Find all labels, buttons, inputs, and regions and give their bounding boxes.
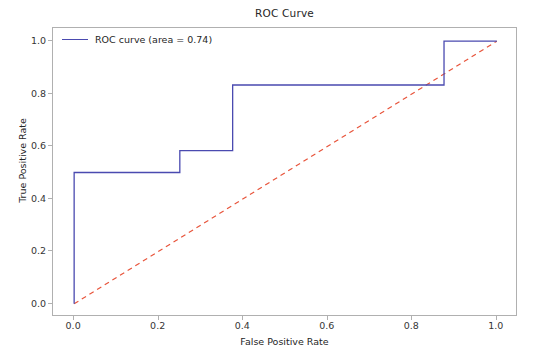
x-tick-label: 0.8 bbox=[391, 320, 431, 331]
x-tick-mark bbox=[73, 316, 74, 320]
x-tick-mark bbox=[158, 316, 159, 320]
x-tick-mark bbox=[327, 316, 328, 320]
legend-label-roc-curve: ROC curve (area = 0.74) bbox=[95, 34, 212, 45]
y-tick-mark bbox=[48, 145, 52, 146]
x-axis-label: False Positive Rate bbox=[52, 336, 517, 347]
x-tick-label: 0.0 bbox=[53, 320, 93, 331]
chart-legend: ROC curve (area = 0.74) bbox=[60, 31, 218, 48]
x-tick-mark bbox=[496, 316, 497, 320]
y-tick-mark bbox=[48, 40, 52, 41]
chart-title: ROC Curve bbox=[52, 7, 517, 19]
y-tick-label: 1.0 bbox=[12, 35, 46, 46]
y-tick-mark bbox=[48, 303, 52, 304]
x-tick-label: 0.2 bbox=[138, 320, 178, 331]
x-tick-mark bbox=[411, 316, 412, 320]
y-tick-label: 0.0 bbox=[12, 297, 46, 308]
y-tick-mark bbox=[48, 198, 52, 199]
roc-curve-figure: ROC Curve 0.00.20.40.60.81.0 0.00.20.40.… bbox=[0, 0, 538, 356]
x-axis-tick-labels: 0.00.20.40.60.81.0 bbox=[52, 320, 517, 334]
plot-area bbox=[52, 27, 517, 316]
x-tick-label: 0.4 bbox=[222, 320, 262, 331]
y-tick-mark bbox=[48, 93, 52, 94]
x-tick-mark bbox=[242, 316, 243, 320]
plot-canvas bbox=[53, 28, 518, 317]
y-axis-label: True Positive Rate bbox=[17, 61, 28, 261]
x-tick-label: 0.6 bbox=[307, 320, 347, 331]
x-tick-label: 1.0 bbox=[476, 320, 516, 331]
y-tick-mark bbox=[48, 250, 52, 251]
legend-line-swatch bbox=[62, 39, 88, 40]
